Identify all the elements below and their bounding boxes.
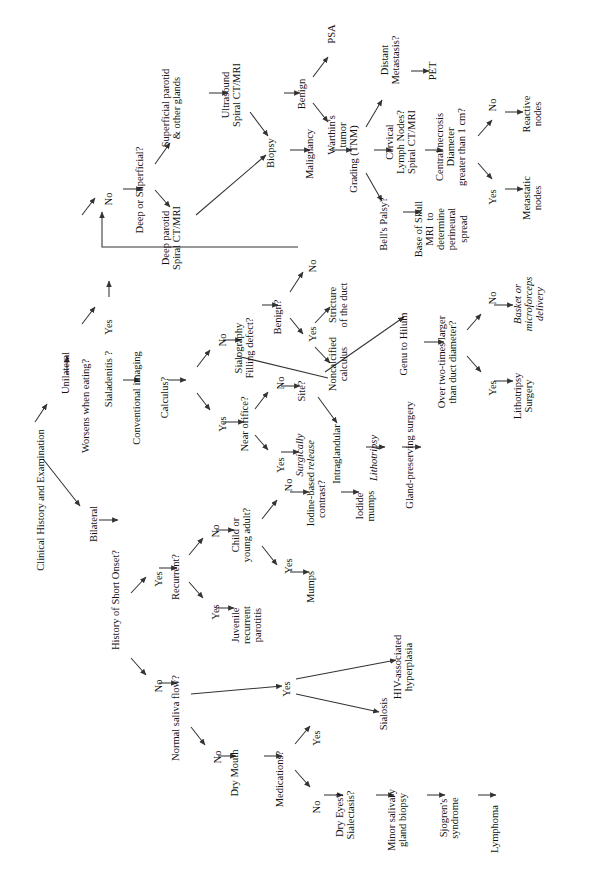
edge-nsyes-hiv — [296, 660, 396, 679]
node-calc-no: No — [217, 329, 228, 351]
node-dry-mouth: Dry Mouth — [229, 742, 240, 804]
node-ns-yes: Yes — [281, 676, 292, 702]
node-ns-no: No — [212, 746, 223, 768]
node-unilateral: Unilateral — [60, 342, 71, 404]
edge-nearorifice-no — [255, 392, 268, 409]
node-noncalcified: Noncalcified calculus — [327, 328, 349, 400]
node-distant-metastasis: Distant Metastasis? — [379, 27, 401, 93]
node-bilateral: Bilateral — [88, 499, 99, 549]
edge-ns-no — [191, 727, 205, 745]
edge-central-yes — [478, 163, 492, 179]
edge-ns-yes — [191, 686, 282, 694]
node-mumps: Mumps — [305, 564, 316, 610]
node-med-yes: Yes — [311, 725, 322, 751]
node-base-of-skull: Base of Skull MRI to determine perineura… — [413, 191, 469, 267]
node-ott-no: No — [487, 287, 498, 309]
node-normal-saliva: Normal saliva flow? — [170, 659, 181, 777]
node-hiv: HIV-associated hyperplasia — [392, 624, 414, 710]
edge-ott-no — [467, 314, 481, 330]
node-cy-yes: Yes — [283, 553, 294, 579]
node-biopsy: Biopsy — [265, 131, 276, 175]
node-lithotripsy-2: Lithotripsy Surgery — [512, 365, 534, 427]
edge-nearorifice-yes — [255, 435, 268, 450]
node-superficial-parotid: Superficial parotid & other glands — [160, 56, 182, 160]
node-deep-parotid: Deep parotid Spiral CT/MRI — [160, 197, 182, 279]
edge-ott-yes — [467, 356, 481, 372]
node-warthins: Warthin's tumor — [326, 107, 348, 163]
node-lithotripsy-1: Lithotripsy — [368, 429, 379, 487]
node-short-onset: History of Short Onset? — [110, 538, 121, 662]
edge-cy-yes — [262, 546, 277, 565]
edge-calculus-yes — [197, 393, 210, 410]
node-recurrent-q: Recurrent? — [170, 545, 181, 609]
node-we-no: No — [103, 188, 114, 210]
node-rec-no: No — [210, 520, 221, 542]
node-medications: Medications? — [274, 740, 285, 818]
node-benign-yes: Yes — [307, 321, 318, 347]
edge-med-no — [295, 770, 310, 787]
node-basket: Basket or microforceps delivery — [512, 267, 545, 341]
edge-benignno-feedback — [102, 212, 298, 247]
node-calculus-q: Calculus? — [159, 370, 170, 425]
node-sjogrens: Sjogren's syndrome — [438, 787, 460, 849]
edge-benign-no — [290, 272, 303, 292]
edge-calculus-no — [197, 350, 210, 367]
node-deep-or-superficial: Deep or Superficial? — [134, 134, 145, 246]
edge-cy-no — [262, 500, 277, 519]
edge-nsyes-sialosis — [296, 694, 379, 712]
node-benign-no: No — [307, 255, 318, 277]
node-so-yes: Yes — [153, 566, 164, 592]
node-lymphoma: Lymphoma — [489, 798, 500, 860]
node-sialadenitis: Sialadenitis ? — [103, 343, 114, 415]
node-so-no: No — [153, 675, 164, 697]
node-iodide-mumps: Iodide mumps — [354, 482, 376, 530]
edge-benign-yes — [290, 318, 303, 334]
node-intraglandular: Intraglandular — [331, 416, 342, 492]
node-grading: Grading (TNM) — [348, 113, 359, 205]
node-central-necrosis: Central necrosis Diameter greater than 1… — [434, 93, 467, 201]
node-juvenile: Juvenile recurrent parotitis — [230, 595, 263, 655]
node-med-no: No — [311, 796, 322, 818]
node-gland-preserving: Gland-preserving surgery — [404, 391, 415, 519]
node-metastatic-nodes: Metastatic nodes — [521, 167, 543, 229]
node-stricture: Stricture of the duct — [327, 274, 349, 336]
edge-benign-psa — [313, 57, 328, 77]
flowchart-canvas: Clinical History and Examination Unilate… — [0, 0, 596, 887]
node-dry-eyes: Dry Eyes? Sialectasis? — [334, 781, 356, 849]
node-cn-yes: Yes — [487, 184, 498, 210]
edge-deep-biopsy — [196, 155, 266, 215]
node-no-no: No — [275, 372, 286, 394]
node-ultrasound: Ultrasound Spiral CT/MRI — [220, 51, 242, 139]
node-psa: PSA — [326, 20, 337, 48]
node-bells-palsy: Bell's Palsy? — [378, 190, 389, 258]
edge-so-yes — [131, 577, 146, 593]
edge-central-no — [478, 120, 492, 136]
node-cy-no: No — [283, 474, 294, 496]
node-over-two-times: Over two-times larger than duct diameter… — [436, 308, 458, 416]
node-iodine-contrast: Iodine-based contrast? — [305, 458, 327, 540]
node-malignancy: Malignancy — [304, 118, 315, 190]
node-cervical-nodes: Cervical Lymph Nodes? Spiral CT/MRI — [384, 96, 417, 188]
node-we-yes: Yes — [103, 314, 114, 340]
edge-worsens-yes — [82, 307, 95, 324]
node-root: Clinical History and Examination — [35, 420, 46, 580]
edge-root-bilateral — [43, 459, 80, 506]
edge-so-no — [131, 658, 146, 675]
edge-grading-distant — [366, 100, 382, 127]
node-sialography: Sialography Filling defect? — [233, 304, 255, 392]
node-genu-hilum: Genu to Hilum — [398, 305, 409, 383]
node-rec-yes: Yes — [210, 599, 221, 625]
node-sialosis: Sialosis — [378, 689, 389, 739]
node-site-q: Site? — [296, 372, 307, 410]
node-ott-yes: Yes — [487, 375, 498, 401]
node-conventional-imaging: Conventional imaging — [131, 342, 142, 454]
node-benign: Benign — [296, 71, 307, 117]
edge-med-yes — [295, 726, 310, 744]
node-worsens-eating: Worsens when eating? — [80, 351, 91, 461]
edge-rec-no — [189, 538, 203, 555]
node-benign-q: Benign? — [272, 291, 283, 343]
node-near-orifice: Near orifice? — [239, 388, 250, 460]
node-child-young: Child or young adult? — [230, 500, 252, 570]
node-reactive-nodes: Reactive nodes — [521, 85, 543, 143]
node-calc-yes: Yes — [217, 411, 228, 437]
